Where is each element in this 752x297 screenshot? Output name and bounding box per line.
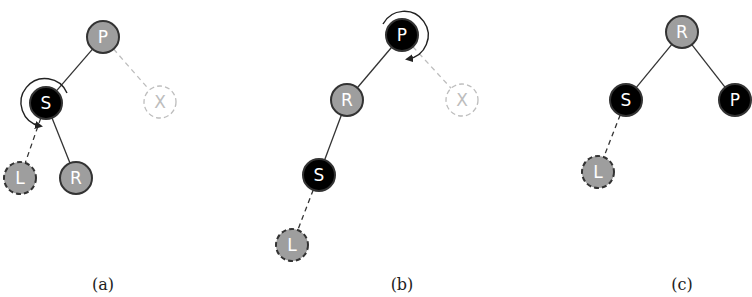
node-a-l: L bbox=[4, 162, 36, 194]
node-label: R bbox=[341, 90, 353, 110]
node-label: P bbox=[98, 27, 108, 47]
node-label: L bbox=[287, 235, 297, 255]
node-b-r: R bbox=[331, 84, 363, 116]
edge-c-s-l bbox=[604, 115, 620, 157]
node-c-l: L bbox=[582, 156, 614, 188]
caption-b: (b) bbox=[391, 275, 414, 294]
node-label: X bbox=[154, 92, 166, 112]
node-b-s: S bbox=[303, 159, 335, 191]
node-label: S bbox=[314, 165, 325, 185]
edge-a-s-r bbox=[52, 118, 70, 163]
cut-off-heading: … bbox=[2, 0, 14, 1]
edge-a-s-l bbox=[25, 118, 41, 163]
node-c-r: R bbox=[666, 16, 698, 48]
node-label: S bbox=[41, 93, 52, 113]
node-a-s: S bbox=[30, 87, 62, 119]
node-label: X bbox=[456, 90, 468, 110]
node-label: R bbox=[676, 22, 688, 42]
edges-layer bbox=[25, 44, 725, 230]
node-c-p: P bbox=[719, 84, 751, 116]
node-label: R bbox=[70, 168, 82, 188]
node-label: S bbox=[621, 90, 632, 110]
node-b-l: L bbox=[276, 229, 308, 261]
node-label: L bbox=[15, 168, 25, 188]
node-a-r: R bbox=[60, 162, 92, 194]
node-label: P bbox=[397, 25, 407, 45]
node-a-p: P bbox=[87, 21, 119, 53]
node-label: L bbox=[593, 162, 603, 182]
rb-tree-rotation-diagram: … PSXLRPRXSLRSPL (a)(b)(c) bbox=[0, 0, 752, 297]
edge-c-r-p bbox=[692, 45, 725, 88]
caption-c: (c) bbox=[671, 275, 692, 294]
node-c-s: S bbox=[610, 84, 642, 116]
node-b-p: P bbox=[386, 19, 418, 51]
caption-a: (a) bbox=[92, 275, 114, 294]
edge-b-s-l bbox=[298, 190, 313, 230]
edge-b-p-x bbox=[413, 47, 451, 88]
node-b-x: X bbox=[446, 84, 478, 116]
captions-layer: (a)(b)(c) bbox=[92, 275, 693, 294]
edge-c-r-s bbox=[636, 44, 672, 87]
edge-b-r-s bbox=[325, 115, 342, 160]
node-a-x: X bbox=[144, 86, 176, 118]
node-label: P bbox=[730, 90, 740, 110]
edge-b-p-r bbox=[357, 47, 391, 88]
edge-a-p-x bbox=[114, 49, 150, 90]
rotation-arrows-layer bbox=[21, 11, 428, 126]
